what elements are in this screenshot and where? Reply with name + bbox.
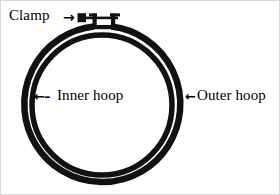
outer-hoop-arrow-icon: ← bbox=[185, 90, 196, 103]
clamp-base-bar bbox=[91, 25, 116, 29]
inner-hoop-ring bbox=[32, 35, 172, 175]
outer-hoop-ring bbox=[24, 27, 180, 183]
clamp-flange-right bbox=[110, 13, 120, 16]
clamp-arrow-icon: → bbox=[63, 10, 75, 24]
clamp-flange-left bbox=[89, 13, 97, 16]
outer-hoop-label: Outer hoop bbox=[197, 88, 266, 103]
clamp-screw-head bbox=[78, 13, 87, 22]
inner-hoop-label: Inner hoop bbox=[57, 88, 123, 103]
clamp-screw-shaft bbox=[85, 17, 118, 20]
inner-hoop-arrow-icon: ←– bbox=[34, 90, 49, 103]
clamp-label: Clamp bbox=[9, 8, 50, 23]
hoop-diagram-figure: Clamp → ←– Inner hoop ← Outer hoop bbox=[0, 0, 280, 195]
